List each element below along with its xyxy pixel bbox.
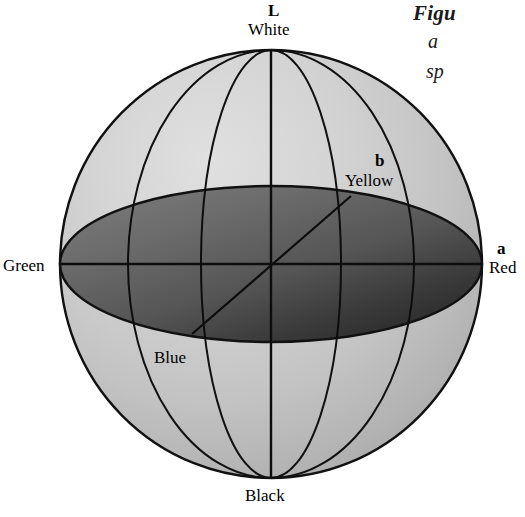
figure-caption: Figu a sp <box>413 0 525 86</box>
label-green: Green <box>3 257 45 274</box>
axis-letter-b: b <box>375 152 384 169</box>
label-red: Red <box>489 259 516 276</box>
figure-caption-title: Figu <box>413 0 525 26</box>
label-white: White <box>248 21 290 38</box>
axis-letter-a: a <box>497 240 506 257</box>
figure-container: L White b Yellow a Red Green Blue Black … <box>0 0 525 517</box>
figure-caption-line-3: sp <box>413 56 525 86</box>
label-yellow: Yellow <box>345 172 393 189</box>
axis-letter-L: L <box>268 2 279 19</box>
label-blue: Blue <box>154 349 186 366</box>
figure-caption-line-2: a <box>413 26 525 56</box>
label-black: Black <box>245 487 285 504</box>
